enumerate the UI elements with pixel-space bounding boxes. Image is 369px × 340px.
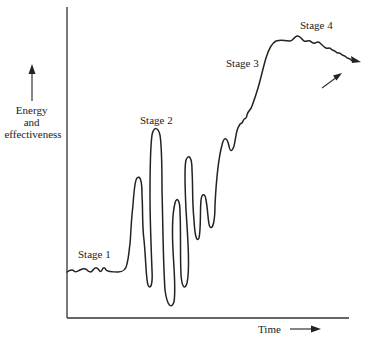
stage-3-label: Stage 3: [226, 57, 259, 69]
x-axis-arrow-icon: [290, 326, 321, 333]
stage-4-label: Stage 4: [300, 19, 333, 31]
stage-2-label: Stage 2: [140, 114, 173, 126]
curve-end-arrowhead-icon: [351, 56, 361, 63]
energy-curve: [67, 36, 354, 306]
y-axis-label: Energy and effectiveness: [4, 104, 61, 140]
decline-pointer-arrow-icon: [322, 73, 342, 88]
x-axis-label: Time: [258, 323, 281, 335]
stage-1-label: Stage 1: [78, 248, 111, 260]
y-axis-arrow-icon: [29, 64, 36, 101]
energy-effectiveness-diagram: Energy and effectiveness Time Stage 1 St…: [0, 0, 369, 340]
